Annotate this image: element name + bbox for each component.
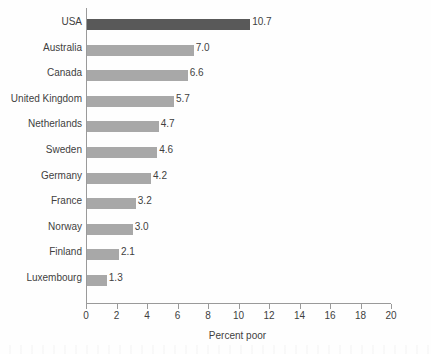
bar-sweden <box>87 147 157 158</box>
x-tick-label-4: 4 <box>144 310 150 321</box>
bar-france <box>87 198 136 209</box>
x-tick-10 <box>239 304 240 309</box>
x-axis-title-text: Percent poor <box>209 330 266 341</box>
x-tick-label-18: 18 <box>355 310 366 321</box>
x-tick-label-16: 16 <box>324 310 335 321</box>
x-tick-18 <box>361 304 362 309</box>
bar-row: Finland2.1 <box>0 249 431 260</box>
bar-germany <box>87 173 151 184</box>
bar-row: Germany4.2 <box>0 173 431 184</box>
category-label-germany: Germany <box>41 170 82 186</box>
category-label-australia: Australia <box>43 42 82 58</box>
value-label-france: 3.2 <box>138 195 152 211</box>
x-tick-20 <box>391 304 392 309</box>
category-label-sweden: Sweden <box>46 144 82 160</box>
x-tick-label-0: 0 <box>83 310 89 321</box>
value-label-united-kingdom: 5.7 <box>176 93 190 109</box>
bar-row: Australia7.0 <box>0 45 431 56</box>
x-tick-8 <box>208 304 209 309</box>
category-label-usa: USA <box>61 16 82 32</box>
bar-row: Luxembourg1.3 <box>0 275 431 286</box>
value-label-sweden: 4.6 <box>159 144 173 160</box>
value-label-luxembourg: 1.3 <box>109 272 123 288</box>
scan-artifact <box>0 345 431 354</box>
value-label-germany: 4.2 <box>153 170 167 186</box>
bar-finland <box>87 249 119 260</box>
category-label-netherlands: Netherlands <box>28 118 82 134</box>
bar-chart: 02468101214161820 USA10.7Australia7.0Can… <box>0 0 431 354</box>
x-tick-0 <box>86 304 87 309</box>
bar-row: Netherlands4.7 <box>0 121 431 132</box>
value-label-australia: 7.0 <box>196 42 210 58</box>
x-tick-16 <box>330 304 331 309</box>
x-tick-label-10: 10 <box>233 310 244 321</box>
x-tick-14 <box>300 304 301 309</box>
value-label-finland: 2.1 <box>121 246 135 262</box>
category-label-canada: Canada <box>47 67 82 83</box>
bar-row: Norway3.0 <box>0 224 431 235</box>
x-tick-label-20: 20 <box>385 310 396 321</box>
x-tick-label-12: 12 <box>263 310 274 321</box>
x-tick-4 <box>147 304 148 309</box>
bar-united-kingdom <box>87 96 174 107</box>
x-tick-label-14: 14 <box>294 310 305 321</box>
bar-row: USA10.7 <box>0 19 431 30</box>
bar-row: United Kingdom5.7 <box>0 96 431 107</box>
bar-row: Canada6.6 <box>0 70 431 81</box>
value-label-norway: 3.0 <box>135 221 149 237</box>
bar-australia <box>87 45 194 56</box>
value-label-usa: 10.7 <box>252 16 271 32</box>
x-tick-label-6: 6 <box>175 310 181 321</box>
x-axis-title: Percent poor <box>0 330 431 341</box>
bar-luxembourg <box>87 275 107 286</box>
bar-netherlands <box>87 121 159 132</box>
value-label-netherlands: 4.7 <box>161 118 175 134</box>
category-label-norway: Norway <box>48 221 82 237</box>
x-tick-12 <box>269 304 270 309</box>
bar-norway <box>87 224 133 235</box>
category-label-france: France <box>51 195 82 211</box>
category-label-luxembourg: Luxembourg <box>26 272 82 288</box>
value-label-canada: 6.6 <box>190 67 204 83</box>
bar-canada <box>87 70 188 81</box>
bar-row: Sweden4.6 <box>0 147 431 158</box>
x-tick-6 <box>178 304 179 309</box>
plot-area: 02468101214161820 USA10.7Australia7.0Can… <box>0 0 431 354</box>
category-label-united-kingdom: United Kingdom <box>11 93 82 109</box>
x-tick-2 <box>117 304 118 309</box>
x-tick-label-2: 2 <box>114 310 120 321</box>
x-tick-label-8: 8 <box>205 310 211 321</box>
bar-row: France3.2 <box>0 198 431 209</box>
bar-usa <box>87 19 250 30</box>
category-label-finland: Finland <box>49 246 82 262</box>
